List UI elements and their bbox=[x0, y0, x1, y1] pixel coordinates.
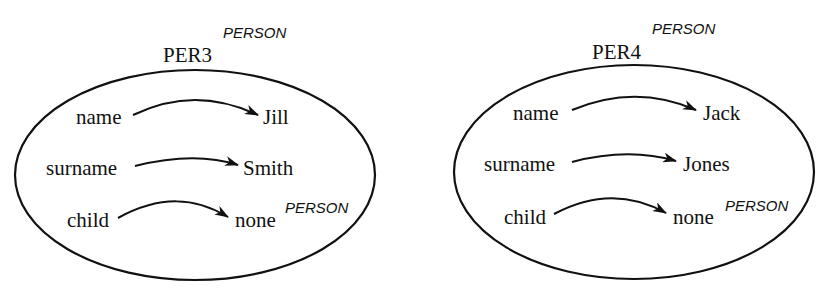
slot-value-type: PERSON bbox=[285, 199, 349, 216]
slot-value-type: PERSON bbox=[725, 197, 789, 214]
slot-value: Smith bbox=[243, 156, 294, 180]
arrow-icon bbox=[118, 201, 228, 218]
arrow-icon bbox=[572, 97, 696, 111]
slot-value: Jill bbox=[263, 105, 289, 129]
arrow-icon bbox=[572, 154, 676, 162]
arrow-icon bbox=[135, 158, 238, 166]
slot-attribute: surname bbox=[46, 156, 117, 180]
slot-attribute: name bbox=[513, 101, 558, 125]
slot-attribute: child bbox=[67, 208, 109, 232]
frame-type: PERSON bbox=[223, 24, 287, 41]
slot-attribute: name bbox=[76, 105, 121, 129]
frame-type: PERSON bbox=[652, 20, 716, 37]
frame-per4: PER4 PERSON name Jack surname Jones chil… bbox=[454, 20, 814, 279]
slot-value: Jones bbox=[683, 152, 730, 176]
frame-id: PER4 bbox=[592, 40, 642, 64]
frame-id: PER3 bbox=[163, 43, 212, 67]
frame-diagram: PER3 PERSON name Jill surname Smith chil… bbox=[0, 0, 828, 297]
slot-value: Jack bbox=[703, 101, 741, 125]
arrow-icon bbox=[554, 198, 666, 214]
slot-value: none bbox=[673, 205, 714, 229]
slot-attribute: surname bbox=[484, 152, 555, 176]
arrow-icon bbox=[133, 100, 258, 115]
slot-value: none bbox=[235, 208, 276, 232]
slot-attribute: child bbox=[504, 205, 546, 229]
frame-per3: PER3 PERSON name Jill surname Smith chil… bbox=[15, 24, 375, 280]
